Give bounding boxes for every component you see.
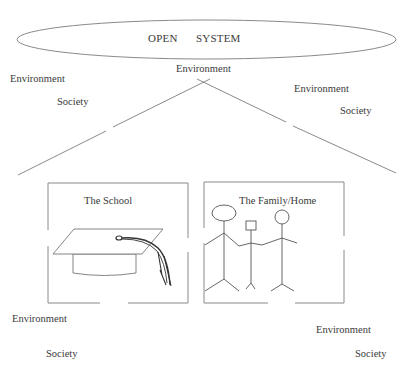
lower-right-society-label: Society xyxy=(355,349,387,360)
graduation-cap-icon xyxy=(53,229,163,276)
lower-left-environment-label: Environment xyxy=(12,314,67,325)
stick-figure-family-icon xyxy=(205,205,297,291)
upper-left-society-label: Society xyxy=(57,97,89,108)
family-home-title: The Family/Home xyxy=(239,196,316,207)
lower-right-environment-label: Environment xyxy=(316,325,371,336)
upper-right-environment-label: Environment xyxy=(294,84,349,95)
school-title: The School xyxy=(84,196,132,207)
apex-environment-label: Environment xyxy=(176,64,231,75)
lower-left-society-label: Society xyxy=(46,349,78,360)
upper-left-environment-label: Environment xyxy=(10,74,65,85)
ellipse-label-system: SYSTEM xyxy=(196,33,241,44)
upper-right-society-label: Society xyxy=(340,106,372,117)
ellipse-label-open: OPEN xyxy=(148,33,178,44)
